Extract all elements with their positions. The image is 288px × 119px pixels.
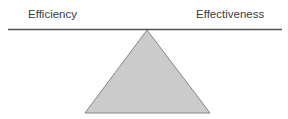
balance-diagram: Efficiency Effectiveness [0,0,288,119]
fulcrum-triangle [85,30,210,113]
balance-drawing [0,0,288,119]
